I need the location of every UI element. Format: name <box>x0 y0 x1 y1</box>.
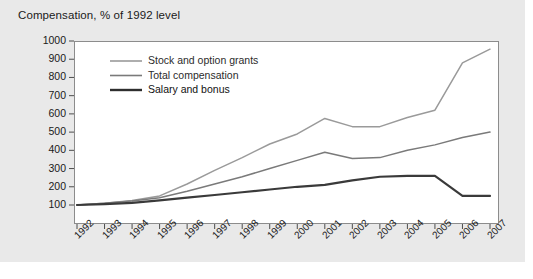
legend-swatch-lines <box>110 61 142 90</box>
chart-vector-layer <box>0 0 533 279</box>
series-lines <box>77 49 490 205</box>
chart-figure: Compensation, % of 1992 level 1002003004… <box>0 0 533 279</box>
